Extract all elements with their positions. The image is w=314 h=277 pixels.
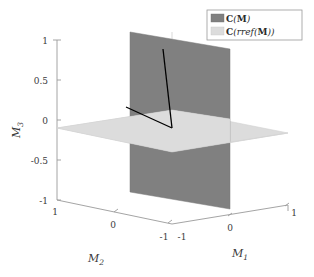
tick-label-m2-0: 0 bbox=[110, 220, 116, 230]
svg-text:M3: M3 bbox=[10, 122, 25, 139]
plot-svg: 1 0.5 0 -0.5 -1 1 0 -1 -1 0 1 M3 M2 M1 bbox=[0, 0, 314, 277]
legend-swatch-col-space-rref-M bbox=[211, 27, 224, 35]
axis-title-m1-base: M bbox=[231, 247, 244, 260]
axis-title-m3-sub: 3 bbox=[16, 122, 25, 127]
axis-title-m2-base: M bbox=[87, 252, 100, 265]
tick-label-m2-m1: -1 bbox=[160, 232, 169, 242]
legend[interactable]: C(M) C(rref(M)) bbox=[207, 10, 302, 40]
axis-title-m3: M3 bbox=[10, 122, 25, 139]
figure-canvas: 1 0.5 0 -0.5 -1 1 0 -1 -1 0 1 M3 M2 M1 bbox=[0, 0, 314, 277]
axis-title-m2-sub: 2 bbox=[98, 258, 104, 267]
axis-title-m1-sub: 1 bbox=[243, 253, 248, 262]
tick-label-m1-1: 1 bbox=[291, 208, 297, 218]
ticks-m2 bbox=[114, 209, 172, 223]
axis-title-m2: M2 bbox=[87, 252, 104, 267]
tick-label-m2-1: 1 bbox=[52, 207, 58, 217]
legend-swatch-col-space-M bbox=[211, 14, 224, 22]
tick-label-m3-05: 0.5 bbox=[34, 76, 49, 86]
legend-label-col-space-M: C(M) bbox=[226, 14, 251, 24]
legend-label-col-space-rref-M: C(rref(M)) bbox=[226, 27, 275, 37]
tick-label-m3-m1: -1 bbox=[39, 196, 48, 206]
axis-title-m3-base: M bbox=[10, 126, 23, 139]
tick-label-m3-1: 1 bbox=[42, 36, 48, 46]
tick-label-m3-0: 0 bbox=[42, 116, 48, 126]
ticks-m3 bbox=[57, 40, 61, 200]
axis-title-m1: M1 bbox=[231, 247, 248, 262]
tick-m2-0 bbox=[114, 209, 118, 212]
tick-m2-m1 bbox=[168, 220, 172, 223]
tick-label-m1-0: 0 bbox=[227, 223, 233, 233]
tick-label-m3-m05: -0.5 bbox=[31, 156, 49, 166]
tick-label-m1-m1: -1 bbox=[178, 232, 187, 242]
